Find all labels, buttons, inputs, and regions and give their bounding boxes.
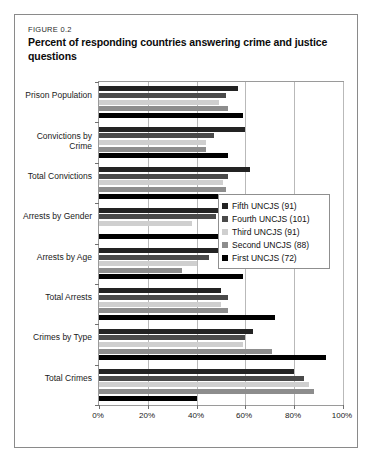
x-axis-tick	[294, 405, 295, 409]
legend-label: Fourth UNCJS (101)	[232, 214, 309, 224]
category-label: Total Arrests	[15, 292, 92, 303]
y-axis-tick	[95, 203, 99, 204]
y-axis-tick	[95, 405, 99, 406]
x-axis-tick	[343, 405, 344, 409]
bar-0	[99, 288, 221, 293]
bar-1	[99, 335, 245, 340]
bar-3	[99, 106, 228, 111]
x-axis-label: 0%	[81, 411, 115, 420]
bar-0	[99, 127, 245, 132]
bar-3	[99, 308, 228, 313]
y-axis-tick	[95, 284, 99, 285]
y-axis-tick	[95, 365, 99, 366]
category-label: Convictions by Crime	[15, 131, 92, 152]
legend-swatch-icon	[222, 255, 228, 261]
x-axis-label: 20%	[130, 411, 164, 420]
bar-2	[99, 302, 221, 307]
x-axis-tick	[99, 405, 100, 409]
bar-1	[99, 255, 209, 260]
x-axis-label: 80%	[276, 411, 310, 420]
legend-item: Third UNCJS (91)	[222, 225, 325, 238]
y-axis-tick	[95, 163, 99, 164]
bar-1	[99, 93, 226, 98]
legend-item: Fourth UNCJS (101)	[222, 212, 325, 225]
category-label: Total Convictions	[15, 171, 92, 182]
chart-legend: Fifth UNCJS (91)Fourth UNCJS (101)Third …	[218, 194, 330, 269]
category-label: Crimes by Type	[15, 332, 92, 343]
bar-4	[99, 355, 326, 360]
bar-4	[99, 274, 243, 279]
bar-3	[99, 349, 272, 354]
x-axis-label: 100%	[325, 411, 359, 420]
bar-4	[99, 315, 275, 320]
x-axis-tick	[245, 405, 246, 409]
bar-3	[99, 389, 314, 394]
bar-2	[99, 100, 219, 105]
legend-swatch-icon	[222, 216, 228, 222]
legend-item: First UNCJS (72)	[222, 251, 325, 264]
bar-0	[99, 86, 238, 91]
bar-0	[99, 167, 250, 172]
bar-3	[99, 147, 206, 152]
y-axis-tick	[95, 324, 99, 325]
gridline	[343, 82, 344, 405]
bar-2	[99, 180, 223, 185]
y-axis-tick	[95, 122, 99, 123]
bar-1	[99, 295, 228, 300]
x-axis-label: 60%	[227, 411, 261, 420]
category-label: Total Crimes	[15, 373, 92, 384]
bar-4	[99, 396, 197, 401]
y-axis-tick	[95, 82, 99, 83]
category-label: Arrests by Age	[15, 252, 92, 263]
bar-1	[99, 174, 228, 179]
legend-label: First UNCJS (72)	[232, 253, 297, 263]
legend-label: Fifth UNCJS (91)	[232, 201, 297, 211]
legend-swatch-icon	[222, 242, 228, 248]
bar-3	[99, 187, 226, 192]
figure-card: FIGURE 0.2 Percent of responding countri…	[14, 14, 358, 448]
caption-block: FIGURE 0.2 Percent of responding countri…	[28, 25, 346, 63]
bar-0	[99, 329, 253, 334]
y-axis-tick	[95, 244, 99, 245]
bar-1	[99, 133, 214, 138]
bar-0	[99, 369, 294, 374]
legend-label: Second UNCJS (88)	[232, 240, 309, 250]
bar-0	[99, 208, 236, 213]
legend-swatch-icon	[222, 229, 228, 235]
legend-label: Third UNCJS (91)	[232, 227, 300, 237]
legend-swatch-icon	[222, 203, 228, 209]
bar-2	[99, 221, 192, 226]
figure-title: Percent of responding countries answerin…	[28, 36, 346, 63]
bar-4	[99, 113, 243, 118]
bar-2	[99, 140, 206, 145]
bar-3	[99, 268, 182, 273]
bar-1	[99, 376, 304, 381]
bar-4	[99, 153, 228, 158]
x-axis-tick	[148, 405, 149, 409]
category-label: Prison Population	[15, 90, 92, 101]
bar-2	[99, 342, 243, 347]
legend-item: Fifth UNCJS (91)	[222, 199, 325, 212]
legend-item: Second UNCJS (88)	[222, 238, 325, 251]
category-label: Arrests by Gender	[15, 211, 92, 222]
figure-label: FIGURE 0.2	[28, 25, 346, 35]
x-axis-tick	[197, 405, 198, 409]
bar-2	[99, 382, 309, 387]
bar-2	[99, 261, 197, 266]
bar-1	[99, 214, 216, 219]
x-axis-label: 40%	[179, 411, 213, 420]
